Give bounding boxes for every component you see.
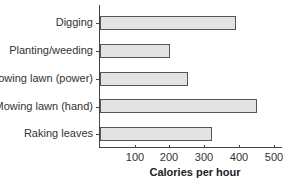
x-tick <box>135 145 136 148</box>
bar-chart: Digging Planting/weeding Mowing lawn (po… <box>0 0 289 188</box>
category-label-digging: Digging <box>56 16 93 28</box>
x-tick <box>204 145 205 148</box>
category-label-planting: Planting/weeding <box>9 44 93 56</box>
x-tick-label: 100 <box>120 151 150 163</box>
bar-mowing-hand <box>100 99 257 113</box>
y-tick <box>96 79 99 80</box>
x-tick <box>239 145 240 148</box>
x-tick-label: 400 <box>224 151 254 163</box>
x-axis-title: Calories per hour <box>135 166 255 178</box>
category-label-raking: Raking leaves <box>24 127 93 139</box>
x-tick <box>169 145 170 148</box>
category-label-mowing-power: Mowing lawn (power) <box>0 72 93 84</box>
bar-planting <box>100 44 170 58</box>
x-tick-label: 300 <box>189 151 219 163</box>
bar-digging <box>100 16 236 30</box>
x-axis-line <box>99 147 282 148</box>
x-tick-label: 500 <box>259 151 289 163</box>
y-tick <box>96 134 99 135</box>
category-label-mowing-hand: Mowing lawn (hand) <box>0 100 93 112</box>
y-tick <box>96 107 99 108</box>
y-tick <box>96 23 99 24</box>
bar-mowing-power <box>100 72 188 86</box>
bar-raking <box>100 127 212 141</box>
x-tick <box>274 145 275 148</box>
y-tick <box>96 51 99 52</box>
x-tick-label: 200 <box>154 151 184 163</box>
